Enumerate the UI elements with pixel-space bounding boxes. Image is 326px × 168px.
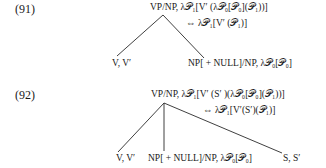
tree-92-child-null-np: NP[ + NULL]/NP, λ𝒫₀[𝒫₀] xyxy=(148,154,252,164)
branch-92-left xyxy=(118,103,164,152)
tree-branches xyxy=(0,0,326,168)
tree-92-child-verb: V, V′ xyxy=(116,154,135,164)
tree-91-equivalence: ⇔ λ𝒫₁[V′ (𝒫₁)] xyxy=(186,19,247,29)
example-number-92: (92) xyxy=(15,89,35,101)
branch-91-left xyxy=(117,15,163,56)
tree-91-child-null-np: NP[ + NULL]/NP, λ𝒫₀[𝒫₀] xyxy=(188,59,292,69)
tree-91-root-label: VP/NP, λ𝒫₁[V′ (λ𝒫₀[𝒫₀](𝒫₁))] xyxy=(150,3,268,13)
tree-91-child-verb: V, V′ xyxy=(112,59,131,69)
tree-92-root-label: VP/NP, λ𝒫₁[V′ (S′ )(λ𝒫₀[𝒫₀](𝒫₁))] xyxy=(151,90,285,100)
tree-92-equivalence: ⇔ λ𝒫₁[V′(S′)(𝒫₁)] xyxy=(203,106,275,116)
example-number-91: (91) xyxy=(15,3,35,15)
tree-92-child-sentence: S, S′ xyxy=(283,154,300,164)
